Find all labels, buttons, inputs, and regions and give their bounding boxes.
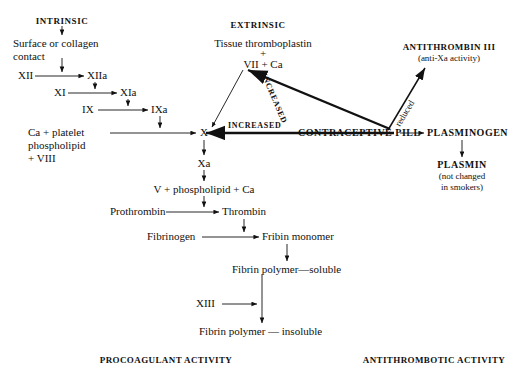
- node-plasmin-note-line1: (not changed: [439, 171, 486, 181]
- node-ca-platelet-line3: + VIII: [28, 152, 56, 164]
- node-prothrombin: Prothrombin: [110, 205, 166, 217]
- node-factor-ixa: IXa: [151, 103, 168, 115]
- node-ca-platelet-line2: phospholipid: [28, 139, 85, 151]
- heading-intrinsic: INTRINSIC: [36, 16, 88, 26]
- heading-extrinsic: EXTRINSIC: [231, 20, 286, 30]
- node-factor-x: X: [200, 126, 208, 138]
- node-vii-ca: VII + Ca: [243, 58, 282, 70]
- node-factor-xi: XI: [54, 86, 66, 98]
- node-factor-xia: XIa: [120, 86, 137, 98]
- node-factor-ix: IX: [82, 103, 94, 115]
- coagulation-cascade-diagram: INTRINSIC EXTRINSIC Surface or collagen …: [0, 0, 515, 371]
- node-plasminogen: PLASMINOGEN: [427, 127, 508, 138]
- footer-antithrombotic-activity: ANTITHROMBOTIC ACTIVITY: [363, 355, 505, 365]
- edge-label-increased-horizontal: INCREASED: [228, 121, 281, 130]
- node-factor-xa: Xa: [198, 157, 211, 169]
- node-v-phospholipid-ca: V + phospholipid + Ca: [154, 183, 255, 195]
- node-fibrin-monomer: Fribin monomer: [262, 230, 334, 242]
- node-plasmin-note-line2: in smokers): [441, 182, 483, 192]
- node-thrombin: Thrombin: [222, 205, 266, 217]
- node-ca-platelet-line1: Ca + platelet: [28, 126, 84, 138]
- node-anti-xa-activity: (anti-Xa activity): [418, 53, 480, 63]
- node-factor-xiia: XIIa: [87, 69, 107, 81]
- node-fibrin-polymer-soluble: Fibrin polymer—soluble: [232, 263, 341, 275]
- node-fibrinogen: Fibrinogen: [147, 230, 195, 242]
- node-antithrombin-iii: ANTITHROMBIN III: [403, 42, 496, 52]
- node-surface-collagen-contact-line1: Surface or collagen: [13, 37, 99, 49]
- node-factor-xii: XII: [18, 69, 33, 81]
- node-fibrin-polymer-insoluble: Fibrin polymer — insoluble: [199, 325, 322, 337]
- footer-procoagulant-activity: PROCOAGULANT ACTIVITY: [100, 355, 233, 365]
- node-contraceptive-pill: CONTRACEPTIVE PILL: [298, 127, 421, 138]
- node-plasmin: PLASMIN: [437, 159, 487, 170]
- node-surface-collagen-contact-line2: contact: [13, 50, 45, 62]
- node-factor-xiii: XIII: [196, 297, 215, 309]
- arrow-vii-ca-to-x-thin: [212, 70, 243, 127]
